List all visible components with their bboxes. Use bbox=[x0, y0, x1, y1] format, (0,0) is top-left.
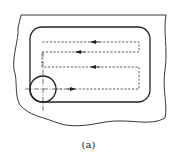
direction-arrows bbox=[66, 42, 100, 89]
pocket-contour bbox=[30, 27, 150, 102]
toolpath bbox=[42, 42, 139, 89]
figure-caption: (a) bbox=[0, 139, 177, 150]
workpiece-boundary bbox=[14, 15, 166, 126]
